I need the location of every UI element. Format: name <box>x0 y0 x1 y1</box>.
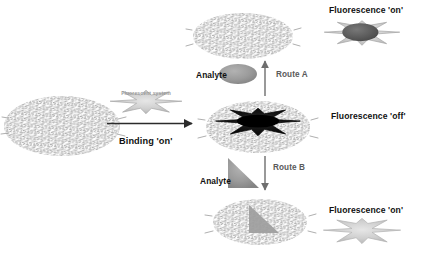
fluorescent-star-on-bottom <box>323 218 400 243</box>
label-fluorescence-on-top: Fluorescence 'on' <box>329 5 403 15</box>
polymer-matrix-top <box>186 13 301 59</box>
label-route-b: Route B <box>273 163 305 172</box>
label-fluorescence-on-bottom: Fluorescence 'on' <box>329 205 403 215</box>
analyte-triangle <box>228 158 259 188</box>
label-route-a: Route A <box>276 70 308 79</box>
polymer-matrix-bottom <box>205 199 316 245</box>
polymer-matrix-left <box>1 96 126 156</box>
fluorescent-star-on-top <box>324 21 399 46</box>
label-analyte-route-a: Analyte <box>196 70 227 80</box>
label-analyte-route-b: Analyte <box>200 176 231 186</box>
label-binding-on: Binding 'on' <box>119 136 173 146</box>
fluorescence-scheme-figure <box>0 0 425 253</box>
label-fluorescence-off: Fluorescence 'off' <box>331 111 406 121</box>
label-fluorescent-system: Fluorescent system <box>118 90 174 97</box>
